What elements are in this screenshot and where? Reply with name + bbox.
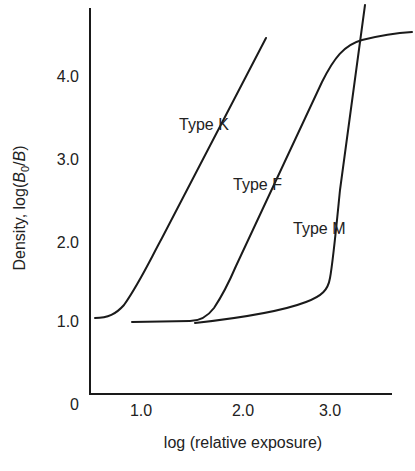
label-type-f: Type F xyxy=(233,176,282,193)
x-axis-label: log (relative exposure) xyxy=(164,434,322,451)
x-tick-1: 1.0 xyxy=(130,402,152,419)
x-tick-2: 2.0 xyxy=(232,402,254,419)
characteristic-curve-chart: 0 1.0 2.0 3.0 4.0 1.0 2.0 3.0 log (relat… xyxy=(0,0,415,471)
y-tick-3: 3.0 xyxy=(57,151,79,168)
y-tick-4: 4.0 xyxy=(57,68,79,85)
y-tick-0: 0 xyxy=(70,396,79,413)
y-tick-1: 1.0 xyxy=(57,313,79,330)
y-axis-label: Density, log(B0/B) xyxy=(11,146,31,271)
label-type-k: Type K xyxy=(179,116,229,133)
label-type-m: Type M xyxy=(293,220,345,237)
y-tick-2: 2.0 xyxy=(57,234,79,251)
x-tick-3: 3.0 xyxy=(319,402,341,419)
